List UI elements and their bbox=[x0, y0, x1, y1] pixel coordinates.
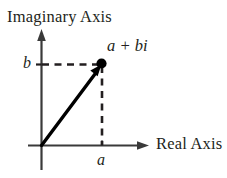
real-axis-arrowhead bbox=[137, 141, 149, 150]
complex-point-marker bbox=[96, 58, 106, 68]
b-tick-label: b bbox=[23, 55, 31, 71]
a-tick-label: a bbox=[97, 152, 105, 168]
complex-plane-diagram: Imaginary Axis Real Axis a + bi b a bbox=[0, 0, 227, 178]
real-axis-label: Real Axis bbox=[156, 136, 222, 153]
imaginary-axis-label: Imaginary Axis bbox=[7, 9, 112, 26]
complex-point-label: a + bi bbox=[107, 38, 147, 55]
position-vector-line bbox=[42, 72, 97, 146]
imaginary-axis-arrowhead bbox=[37, 29, 46, 41]
